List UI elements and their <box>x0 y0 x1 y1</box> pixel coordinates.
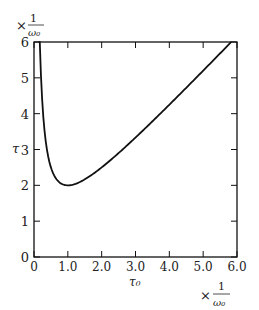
x-tick-label: 1.0 <box>58 260 77 274</box>
y-tick-label: 6 <box>21 35 29 50</box>
svg-text:×: × <box>200 288 211 303</box>
data-curve <box>40 41 232 185</box>
y-tick-label: 5 <box>21 71 29 86</box>
axis-ticks <box>34 42 237 257</box>
x-tick-label: 5.0 <box>194 260 213 274</box>
x-tick-label: 6.0 <box>227 260 246 274</box>
chart: × 1 ω₀ 0123456 01.02.03.04.05.06.0 τ τ₀ … <box>0 0 259 310</box>
y-tick-label: 1 <box>21 214 29 229</box>
y-tick-label: 2 <box>21 178 29 193</box>
y-tick-label: 0 <box>21 250 29 265</box>
svg-text:1: 1 <box>218 280 225 293</box>
x-tick-label: 0 <box>30 260 38 274</box>
svg-text:1: 1 <box>30 12 37 25</box>
plot-frame <box>34 42 237 257</box>
svg-text:ω₀: ω₀ <box>28 27 40 38</box>
y-tick-labels: 0123456 <box>21 35 29 265</box>
svg-text:ω₀: ω₀ <box>213 297 225 308</box>
x-unit-label: × 1 ω₀ <box>200 280 230 308</box>
svg-text:×: × <box>16 18 27 33</box>
y-axis-label: τ <box>12 141 20 156</box>
y-tick-label: 3 <box>21 143 29 158</box>
x-axis-label: τ₀ <box>129 275 141 289</box>
x-tick-label: 3.0 <box>126 260 145 274</box>
x-tick-labels: 01.02.03.04.05.06.0 <box>30 260 246 274</box>
y-tick-label: 4 <box>21 107 29 122</box>
x-tick-label: 4.0 <box>160 260 179 274</box>
x-tick-label: 2.0 <box>92 260 111 274</box>
